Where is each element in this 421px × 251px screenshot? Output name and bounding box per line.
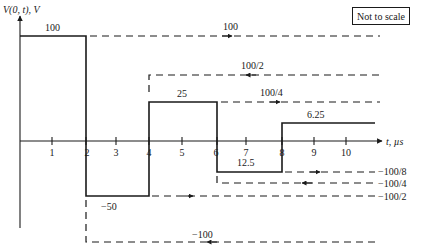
x-tick-label: 3 bbox=[114, 147, 119, 158]
wave-label-100-2: 100/2 bbox=[241, 60, 264, 71]
pulse-label-6-25: 6.25 bbox=[307, 109, 325, 120]
axes: 1 2 3 4 5 6 7 8 9 10 V(0, t), V t, µs bbox=[3, 4, 404, 228]
x-axis-label: t, µs bbox=[386, 136, 404, 147]
wave-label-neg-100-2: −100/2 bbox=[378, 191, 406, 202]
wave-label-100-4: 100/4 bbox=[260, 87, 283, 98]
x-tick-label: 9 bbox=[312, 147, 317, 158]
pulse-label-neg50: −50 bbox=[101, 201, 117, 212]
pulse-label-12-5: 12.5 bbox=[237, 157, 255, 168]
wave-neg-100 bbox=[86, 200, 375, 242]
y-axis-label: V(0, t), V bbox=[3, 4, 42, 16]
not-to-scale-note: Not to scale bbox=[352, 7, 410, 25]
wave-neg-100-4 bbox=[217, 176, 375, 183]
pulse-label-100: 100 bbox=[45, 22, 60, 33]
wave-label-100: 100 bbox=[223, 21, 238, 32]
x-tick-label: 1 bbox=[50, 147, 55, 158]
wave-label-neg-100: −100 bbox=[192, 229, 213, 240]
x-tick-label: 10 bbox=[341, 147, 351, 158]
wave-label-neg-100-4: −100/4 bbox=[378, 178, 406, 189]
pulse-label-25: 25 bbox=[177, 88, 187, 99]
traveling-waves bbox=[86, 36, 380, 242]
waveform-diagram: 1 2 3 4 5 6 7 8 9 10 V(0, t), V t, µs bbox=[0, 0, 421, 251]
x-tick-label: 5 bbox=[180, 147, 185, 158]
wave-label-neg-100-8: −100/8 bbox=[378, 166, 406, 177]
